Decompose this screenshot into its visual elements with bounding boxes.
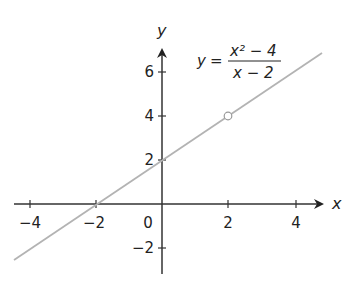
x-tick-label: −2 xyxy=(83,214,105,232)
function-line xyxy=(14,53,322,260)
x-tick-label: 2 xyxy=(223,214,233,232)
y-tick-label: 2 xyxy=(144,151,154,169)
svg-text:=: = xyxy=(210,52,223,70)
svg-text:x² − 4: x² − 4 xyxy=(229,42,277,60)
y-tick-label: 4 xyxy=(144,107,154,125)
y-axis-label: y xyxy=(156,21,167,40)
chart: −4 −2 0 2 4 6 4 2 −2 x y y = x² − 4 x − … xyxy=(0,0,348,292)
svg-text:y: y xyxy=(196,52,207,70)
y-tick-label: 6 xyxy=(144,63,154,81)
x-axis-label: x xyxy=(331,194,342,213)
open-circle-hole xyxy=(224,112,232,120)
x-tick-label: 0 xyxy=(143,214,153,232)
x-tick-label: −4 xyxy=(19,214,41,232)
equation-label: y = x² − 4 x − 2 xyxy=(196,42,281,82)
x-tick-label: 4 xyxy=(291,214,301,232)
svg-text:x − 2: x − 2 xyxy=(232,64,274,82)
y-tick-label: −2 xyxy=(132,239,154,257)
